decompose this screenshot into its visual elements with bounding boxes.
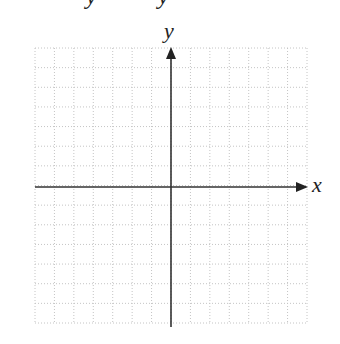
y-axis-label: y (164, 20, 174, 42)
axes (35, 47, 308, 327)
x-axis-arrow-icon (296, 182, 308, 192)
y-axis-arrow-icon (166, 47, 176, 59)
x-axis-label: x (312, 174, 322, 196)
coordinate-plane (0, 0, 340, 344)
